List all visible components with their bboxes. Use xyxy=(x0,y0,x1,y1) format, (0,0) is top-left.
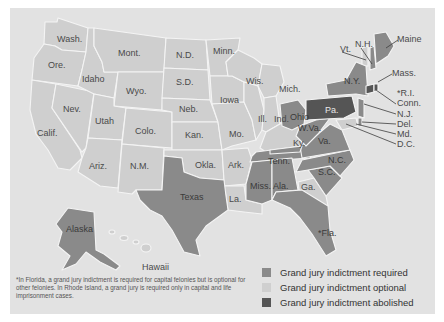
svg-text:Iowa: Iowa xyxy=(220,95,239,105)
svg-text:Vt.: Vt. xyxy=(340,44,351,54)
svg-text:S.C.: S.C. xyxy=(318,167,336,177)
svg-text:Ohio: Ohio xyxy=(290,112,309,122)
legend: Grand jury indictment required Grand jur… xyxy=(262,265,414,310)
svg-text:Pa.: Pa. xyxy=(325,105,339,115)
legend-item-abolished: Grand jury indictment abolished xyxy=(262,295,414,310)
svg-text:Wyo.: Wyo. xyxy=(126,86,146,96)
svg-text:Alaska: Alaska xyxy=(66,224,93,234)
svg-text:Ind.: Ind. xyxy=(274,114,289,124)
svg-text:Ore.: Ore. xyxy=(48,60,66,70)
state-nj xyxy=(358,98,364,118)
state-vt xyxy=(362,46,368,66)
svg-text:N.H.: N.H. xyxy=(355,39,373,49)
state-hi xyxy=(109,230,151,252)
svg-text:Texas: Texas xyxy=(180,192,204,202)
svg-text:Va.: Va. xyxy=(318,136,331,146)
state-ak xyxy=(56,208,120,270)
svg-text:Mich.: Mich. xyxy=(279,84,301,94)
legend-item-optional: Grand jury indictment optional xyxy=(262,280,414,295)
legend-label: Grand jury indictment optional xyxy=(280,282,406,293)
svg-text:Ky.: Ky. xyxy=(293,138,305,148)
footnote: *In Florida, a grand jury indictment is … xyxy=(16,276,246,301)
svg-text:N.C.: N.C. xyxy=(328,155,346,165)
svg-text:Del.: Del. xyxy=(397,119,413,129)
svg-text:Ga.: Ga. xyxy=(301,182,316,192)
legend-label: Grand jury indictment abolished xyxy=(280,297,414,308)
svg-text:N.D.: N.D. xyxy=(176,50,194,60)
svg-text:Mass.: Mass. xyxy=(392,68,416,78)
svg-text:S.D.: S.D. xyxy=(176,77,194,87)
svg-text:Ariz.: Ariz. xyxy=(89,161,107,171)
svg-text:Nev.: Nev. xyxy=(63,104,81,114)
svg-text:*R.I.: *R.I. xyxy=(397,88,415,98)
svg-text:La.: La. xyxy=(229,194,242,204)
legend-item-required: Grand jury indictment required xyxy=(262,265,414,280)
swatch-optional xyxy=(262,283,271,292)
svg-text:*Fla.: *Fla. xyxy=(318,228,337,238)
svg-text:Md.: Md. xyxy=(397,129,412,139)
svg-text:N.J.: N.J. xyxy=(397,109,413,119)
svg-text:W.Va.: W.Va. xyxy=(298,123,321,133)
svg-text:Ill.: Ill. xyxy=(258,114,267,124)
svg-text:N.Y.: N.Y. xyxy=(344,76,360,86)
svg-text:Idaho: Idaho xyxy=(82,74,105,84)
svg-text:Ala.: Ala. xyxy=(273,181,289,191)
svg-text:Neb.: Neb. xyxy=(179,104,198,114)
svg-text:Okla.: Okla. xyxy=(195,160,216,170)
svg-text:Tenn.: Tenn. xyxy=(268,156,290,166)
svg-text:Maine: Maine xyxy=(397,34,422,44)
state-ct xyxy=(366,84,374,94)
legend-label: Grand jury indictment required xyxy=(280,267,408,278)
svg-text:Miss.: Miss. xyxy=(250,181,271,191)
svg-text:Mont.: Mont. xyxy=(118,48,141,58)
svg-text:N.M.: N.M. xyxy=(130,161,149,171)
svg-text:Utah: Utah xyxy=(95,116,114,126)
svg-text:D.C.: D.C. xyxy=(397,139,415,149)
svg-text:Conn.: Conn. xyxy=(397,98,421,108)
svg-text:Colo.: Colo. xyxy=(135,126,156,136)
svg-text:Hawaii: Hawaii xyxy=(142,262,169,272)
swatch-abolished xyxy=(262,298,271,307)
state-me xyxy=(374,32,394,64)
swatch-required xyxy=(262,268,271,277)
svg-text:Calif.: Calif. xyxy=(37,128,58,138)
svg-text:Minn.: Minn. xyxy=(213,46,235,56)
svg-text:Wis.: Wis. xyxy=(246,76,264,86)
map-figure: Wash. Ore. Calif. Nev. Idaho Mont. Wyo. … xyxy=(0,0,444,322)
svg-text:Mo.: Mo. xyxy=(229,129,244,139)
svg-text:Ark.: Ark. xyxy=(228,160,244,170)
svg-text:Kan.: Kan. xyxy=(185,130,204,140)
svg-text:Wash.: Wash. xyxy=(57,34,82,44)
